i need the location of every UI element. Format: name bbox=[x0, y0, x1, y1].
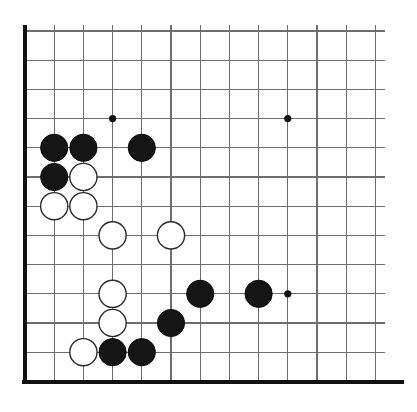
white-stone[interactable] bbox=[157, 222, 184, 249]
star-point bbox=[284, 115, 291, 122]
white-stone[interactable] bbox=[99, 222, 126, 249]
star-point bbox=[109, 115, 116, 122]
white-stone[interactable] bbox=[99, 309, 126, 336]
black-stone[interactable] bbox=[245, 280, 272, 307]
white-stone[interactable] bbox=[70, 163, 97, 190]
white-stone[interactable] bbox=[41, 193, 68, 220]
black-stone[interactable] bbox=[70, 134, 97, 161]
black-stone[interactable] bbox=[187, 280, 214, 307]
stones-layer[interactable] bbox=[41, 134, 273, 366]
goban-canvas[interactable] bbox=[0, 0, 417, 412]
white-stone[interactable] bbox=[70, 193, 97, 220]
black-stone[interactable] bbox=[41, 163, 68, 190]
white-stone[interactable] bbox=[70, 339, 97, 366]
white-stone[interactable] bbox=[99, 280, 126, 307]
go-board-diagram bbox=[0, 0, 417, 412]
black-stone[interactable] bbox=[157, 309, 184, 336]
black-stone[interactable] bbox=[128, 339, 155, 366]
black-stone[interactable] bbox=[99, 339, 126, 366]
star-point bbox=[284, 290, 291, 297]
black-stone[interactable] bbox=[128, 134, 155, 161]
black-stone[interactable] bbox=[41, 134, 68, 161]
